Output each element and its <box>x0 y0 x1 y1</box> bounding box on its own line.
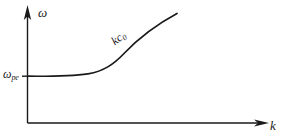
x-axis-label: k <box>270 119 276 132</box>
plot-canvas <box>0 0 285 140</box>
cutoff-frequency-label: ωpe <box>3 68 19 82</box>
dispersion-diagram-figure: ω k ωpe kc0 <box>0 0 285 140</box>
y-axis-label: ω <box>38 6 47 19</box>
cutoff-subscript: pe <box>11 73 18 82</box>
dispersion-curve <box>28 14 177 77</box>
